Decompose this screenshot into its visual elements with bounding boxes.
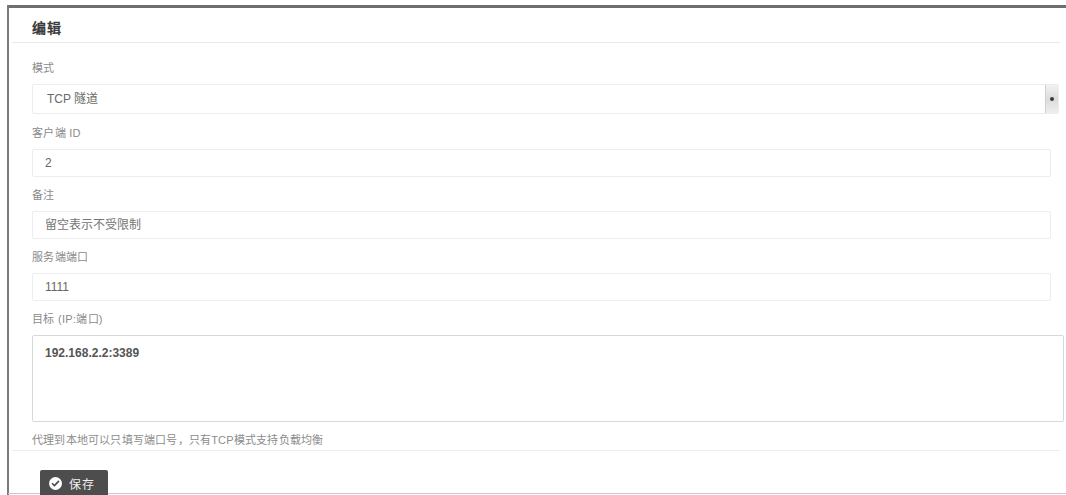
check-circle-icon <box>49 477 62 490</box>
form-group-target: 目标 (IP:端口) 代理到本地可以只填写端口号，只有TCP模式支持负载均衡 <box>12 310 1060 447</box>
chevron-down-icon[interactable] <box>1045 85 1058 113</box>
label-client-id: 客户端 ID <box>32 124 1060 140</box>
label-server-port: 服务端端口 <box>32 248 1060 264</box>
server-port-input[interactable] <box>32 273 1051 301</box>
mode-select[interactable]: TCP 隧道 <box>32 84 1059 114</box>
label-target: 目标 (IP:端口) <box>32 310 1060 326</box>
save-button-label: 保存 <box>69 475 94 492</box>
mode-select-wrapper[interactable]: TCP 隧道 <box>32 84 1059 114</box>
page-root: 编辑 模式 TCP 隧道 客户端 ID 备注 <box>0 0 1066 495</box>
form-group-server-port: 服务端端口 <box>12 248 1060 301</box>
client-id-input[interactable] <box>32 149 1051 177</box>
form-group-client-id: 客户端 ID <box>12 124 1060 177</box>
label-note: 备注 <box>32 186 1060 202</box>
panel-header: 编辑 <box>12 9 1066 41</box>
target-textarea[interactable] <box>32 335 1064 422</box>
header-divider <box>12 42 1060 43</box>
edit-panel: 编辑 模式 TCP 隧道 客户端 ID 备注 <box>12 9 1066 493</box>
save-button[interactable]: 保存 <box>40 470 108 495</box>
note-input[interactable] <box>32 211 1051 239</box>
target-help-text: 代理到本地可以只填写端口号，只有TCP模式支持负载均衡 <box>32 431 1060 447</box>
frame-bottom-edge <box>8 493 1066 494</box>
footer-divider <box>12 450 1060 451</box>
frame-top-edge <box>8 5 1066 8</box>
form-group-note: 备注 <box>12 186 1060 239</box>
page-title: 编辑 <box>32 17 61 37</box>
form-group-mode: 模式 TCP 隧道 <box>12 59 1060 114</box>
frame-left-edge <box>7 5 9 495</box>
chevron-down-glyph <box>1050 97 1054 101</box>
label-mode: 模式 <box>32 59 1060 75</box>
